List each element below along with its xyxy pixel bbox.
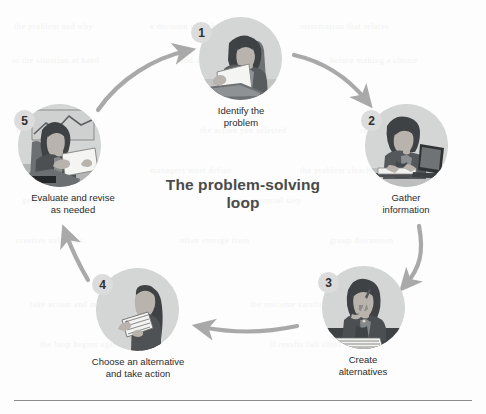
scanned-page: the problem and whya decision must be ma… [0,0,486,414]
step-2-badge: 2 [361,110,382,131]
step-5-badge: 5 [14,110,35,131]
arrow-3-to-4 [202,326,297,331]
arrow-2-to-3 [406,226,421,284]
arrow-1-to-2 [294,55,366,100]
step-1-badge: 1 [191,22,212,43]
step-3-caption: Create alternatives [302,354,424,378]
step-4-badge: 4 [92,274,113,295]
arrow-5-to-1 [98,51,186,110]
step-2-caption: Gather information [345,192,467,216]
step-3-badge: 3 [318,272,339,293]
diagram-title: The problem-solving loop [133,176,353,212]
page-footer-rule [14,400,472,401]
step-1-caption: Identify the problem [180,105,302,129]
step-5-caption: Evaluate and revise as needed [0,192,149,216]
arrow-4-to-5 [66,234,88,280]
step-4-caption: Choose an alternative and take action [62,356,214,380]
